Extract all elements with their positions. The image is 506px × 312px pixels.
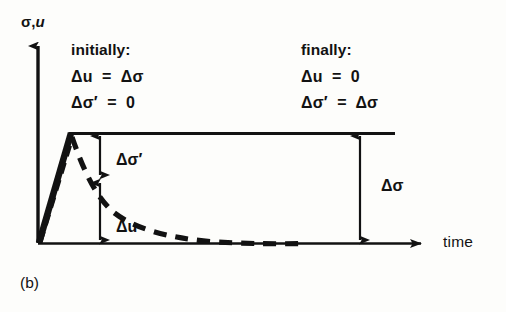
initial-note-equation-2: Δσ′ = 0 <box>71 95 135 111</box>
final-note-equation-1: Δu = 0 <box>301 69 360 85</box>
figure-caption: (b) <box>20 275 39 291</box>
y-axis-label: σ,u <box>21 14 45 29</box>
initial-note-heading: initially: <box>71 42 131 58</box>
final-note-equation-2: Δσ′ = Δσ <box>301 95 378 111</box>
y-axis-label-sigma: σ <box>21 13 31 30</box>
annotation-delta-u: Δu <box>116 219 137 235</box>
series-pore-pressure <box>40 137 300 244</box>
y-axis-label-u: u <box>35 13 44 30</box>
figure-panel-b: σ,u initially: Δu = Δσ Δσ′ = 0 finally: … <box>0 0 506 312</box>
x-axis-label: time <box>443 234 473 250</box>
annotation-delta-sigma-prime: Δσ′ <box>116 152 142 168</box>
annotation-delta-sigma: Δσ <box>381 178 403 194</box>
final-note-heading: finally: <box>301 42 352 58</box>
initial-note-equation-1: Δu = Δσ <box>71 69 144 85</box>
